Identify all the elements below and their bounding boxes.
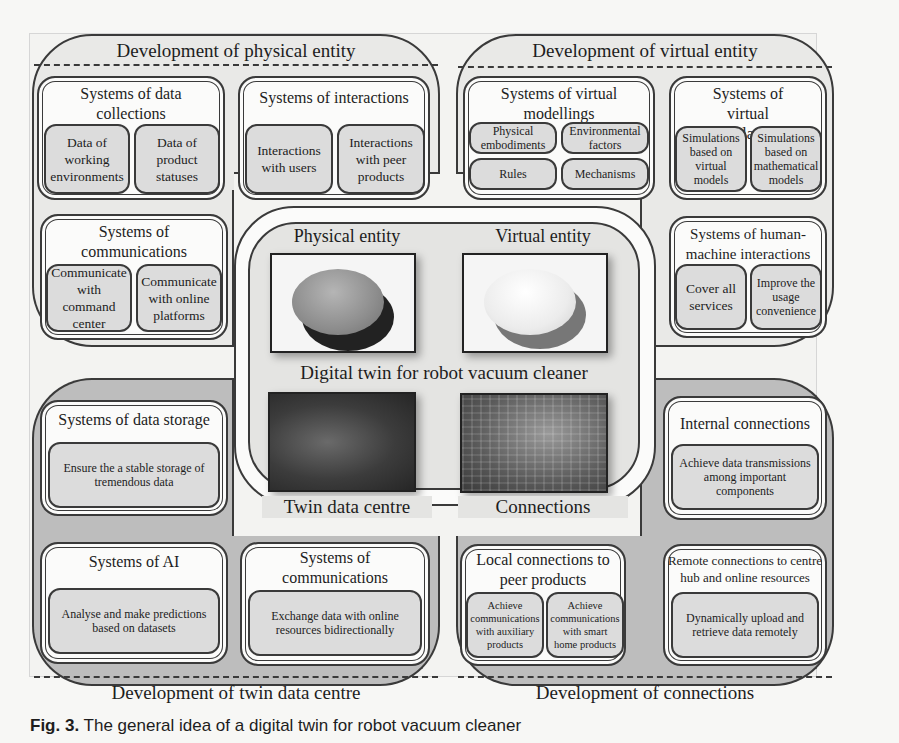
analyse-and-make-predictions: Analyse and make predictions based on da… — [48, 588, 220, 654]
systems-of-interactions: Systems of interactions Interactions wit… — [238, 76, 430, 200]
connections-title: Development of connections — [456, 682, 834, 704]
communications-with-smart-home-products: Achieve communications with smart home p… — [546, 592, 624, 658]
divider — [34, 676, 438, 678]
system-title: Remote connections to centre hub and onl… — [665, 552, 825, 586]
virtual-robot-image — [462, 253, 608, 353]
local-connections-to-peer-products: Local connections to peer products Achie… — [460, 544, 626, 666]
system-title: Systems of interactions — [240, 88, 428, 108]
interactions-with-users: Interactions with users — [245, 124, 333, 194]
system-title: Local connections to peer products — [462, 550, 624, 590]
divider — [458, 676, 832, 678]
simulations-based-on-virtual-models: Simulations based on virtual models — [675, 126, 747, 192]
interactions-with-peer-products: Interactions with peer products — [337, 124, 425, 194]
system-title: Systems of communications — [242, 548, 428, 588]
virtual-entity-title: Development of virtual entity — [456, 40, 834, 62]
figure-caption: Fig. 3. The general idea of a digital tw… — [30, 716, 521, 736]
system-title: Systems of human-machine interactions — [671, 224, 825, 264]
system-title: Systems of communications — [42, 222, 226, 262]
cover-all-services: Cover all services — [675, 264, 747, 330]
divider — [458, 66, 832, 68]
caption-text: The general idea of a digital twin for r… — [84, 716, 522, 735]
mechanisms: Mechanisms — [561, 158, 649, 190]
internal-connections: Internal connections Achieve data transm… — [663, 396, 827, 520]
systems-of-communications-physical: Systems of communications Communicate wi… — [40, 214, 228, 340]
systems-of-communications-data-centre: Systems of communications Exchange data … — [240, 542, 430, 666]
ensure-stable-storage: Ensure the a stable storage of tremendou… — [48, 442, 220, 508]
communicate-with-online-platforms: Communicate with online platforms — [136, 264, 222, 332]
communicate-with-command-center: Communicate with command center — [46, 264, 132, 332]
physical-robot-image — [270, 253, 416, 353]
data-of-working-environments: Data of working environments — [44, 124, 130, 194]
systems-of-virtual-modellings: Systems of virtual modellings Physical e… — [463, 76, 655, 200]
environmental-factors: Environmental factors — [561, 122, 649, 154]
physical-entity-title: Development of physical entity — [32, 40, 440, 62]
improve-the-usage-convenience: Improve the usage convenience — [750, 264, 822, 330]
digital-twin-title: Digital twin for robot vacuum cleaner — [248, 362, 640, 384]
caption-label: Fig. 3. — [30, 716, 79, 735]
system-title: Systems of data storage — [42, 410, 226, 430]
twin-data-centre-title: Development of twin data centre — [32, 682, 440, 704]
twin-data-centre-image — [268, 392, 416, 492]
remote-connections: Remote connections to centre hub and onl… — [663, 544, 827, 666]
exchange-data-bidirectionally: Exchange data with online resources bidi… — [248, 590, 422, 656]
system-title: Internal connections — [665, 414, 825, 434]
twin-data-centre-label: Twin data centre — [262, 496, 432, 518]
system-title: Systems of data collections — [39, 84, 223, 124]
connections-image — [460, 393, 608, 493]
simulations-based-on-mathematical-models: Simulations based on mathematical models — [750, 126, 822, 192]
physical-entity-label: Physical entity — [262, 226, 432, 247]
divider — [34, 64, 438, 66]
data-of-product-statuses: Data of product statuses — [134, 124, 220, 194]
physical-embodiments: Physical embodiments — [469, 122, 557, 154]
systems-of-human-machine-interactions: Systems of human-machine interactions Co… — [669, 216, 827, 338]
system-title: Systems of AI — [42, 552, 226, 572]
systems-of-ai: Systems of AI Analyse and make predictio… — [40, 542, 228, 664]
dynamically-upload-retrieve: Dynamically upload and retrieve data rem… — [671, 592, 819, 658]
systems-of-data-storage: Systems of data storage Ensure the a sta… — [40, 400, 228, 516]
system-title: Systems of virtual modellings — [465, 84, 653, 124]
virtual-entity-label: Virtual entity — [458, 226, 628, 247]
connections-label: Connections — [458, 496, 628, 518]
systems-of-data-collections: Systems of data collections Data of work… — [37, 76, 225, 200]
achieve-data-transmissions: Achieve data transmissions among importa… — [671, 444, 819, 510]
communications-with-auxiliary-products: Achieve communications with auxiliary pr… — [466, 592, 544, 658]
systems-of-virtual-simulations: Systems of virtual simulations Simulatio… — [669, 76, 827, 200]
rules: Rules — [469, 158, 557, 190]
